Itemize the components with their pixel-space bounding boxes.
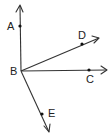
ray-be: E	[21, 71, 55, 132]
ray-bd: D	[21, 29, 99, 71]
ray-line	[20, 6, 21, 71]
point-c	[87, 68, 90, 71]
point-a	[18, 24, 21, 27]
ray-line	[21, 38, 99, 71]
label-c: C	[86, 73, 94, 85]
rays-diagram: ADCEB	[0, 0, 110, 138]
point-e	[40, 112, 43, 115]
label-b-vertex: B	[10, 65, 17, 77]
ray-bc: C	[21, 66, 107, 85]
ray-line	[21, 70, 107, 71]
label-e: E	[48, 107, 55, 119]
label-d: D	[78, 29, 86, 41]
label-a: A	[7, 20, 15, 32]
ray-line	[21, 71, 49, 132]
ray-ba: A	[7, 5, 23, 71]
point-d	[80, 42, 83, 45]
